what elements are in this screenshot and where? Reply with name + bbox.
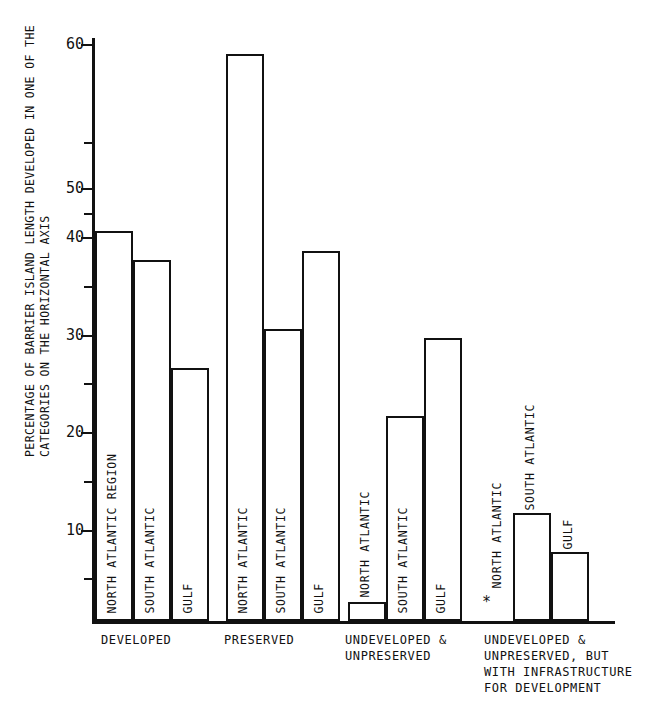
bar-infrastructure-south-atlantic bbox=[513, 513, 551, 621]
y-tick-label-30: 30 bbox=[50, 328, 84, 343]
bar-preserved-gulf bbox=[302, 251, 340, 621]
y-tick-label-60: 60 bbox=[50, 37, 84, 52]
bar-label-developed-south-atlantic: SOUTH ATLANTIC bbox=[145, 506, 157, 613]
group-caption-undeveloped-unpreserved: UNDEVELOPED & UNPRESERVED bbox=[345, 632, 447, 664]
bar-undeveloped-unpreserved-north-atlantic bbox=[348, 602, 386, 621]
y-tick-15 bbox=[84, 481, 92, 483]
y-axis-title: PERCENTAGE OF BARRIER ISLAND LENGTH DEVE… bbox=[23, 17, 53, 457]
bar-infrastructure-gulf bbox=[551, 552, 589, 621]
y-tick-label-10: 10 bbox=[50, 523, 84, 538]
group-caption-preserved: PRESERVED bbox=[224, 632, 294, 648]
y-tick-25 bbox=[84, 383, 92, 385]
bar-label-infrastructure-north-atlantic: NORTH ATLANTIC bbox=[492, 481, 504, 588]
bar-label-infrastructure-gulf: GULF bbox=[563, 519, 575, 550]
x-axis-line bbox=[92, 621, 615, 624]
bar-label-developed-gulf: GULF bbox=[183, 583, 195, 614]
bar-label-undeveloped-unpreserved-south-atlantic: SOUTH ATLANTIC bbox=[398, 506, 410, 613]
y-tick-label-40: 40 bbox=[50, 230, 84, 245]
bar-label-undeveloped-unpreserved-gulf: GULF bbox=[436, 583, 448, 614]
bar-label-undeveloped-unpreserved-north-atlantic: NORTH ATLANTIC bbox=[360, 490, 372, 597]
bar-label-preserved-gulf: GULF bbox=[314, 583, 326, 614]
bar-undeveloped-unpreserved-gulf bbox=[424, 338, 462, 621]
bar-label-infrastructure-south-atlantic: SOUTH ATLANTIC bbox=[525, 403, 537, 510]
bar-chart: PERCENTAGE OF BARRIER ISLAND LENGTH DEVE… bbox=[0, 0, 651, 713]
group-caption-infrastructure: UNDEVELOPED & UNPRESERVED, BUT WITH INFR… bbox=[484, 632, 633, 696]
y-tick-label-50: 50 bbox=[50, 181, 84, 196]
no-data-marker-star: * bbox=[482, 595, 491, 610]
y-tick-55 bbox=[84, 142, 92, 144]
bar-label-developed-north-atlantic-region: NORTH ATLANTIC REGION bbox=[107, 453, 119, 613]
group-caption-developed: DEVELOPED bbox=[101, 632, 171, 648]
y-tick-label-20: 20 bbox=[50, 425, 84, 440]
y-tick-35 bbox=[84, 286, 92, 288]
bar-label-preserved-south-atlantic: SOUTH ATLANTIC bbox=[276, 506, 288, 613]
y-tick-5 bbox=[84, 578, 92, 580]
y-tick-45 bbox=[84, 213, 92, 215]
bar-label-preserved-north-atlantic: NORTH ATLANTIC bbox=[238, 506, 250, 613]
